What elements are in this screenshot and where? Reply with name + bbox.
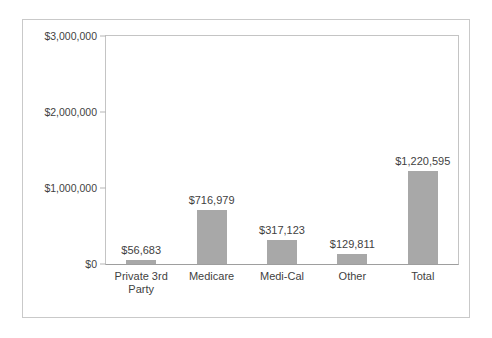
bar-other[interactable] (337, 254, 367, 264)
y-tick-label-3000000: $3,000,000 (22, 31, 106, 42)
bar-value-label-medi-cal: $317,123 (259, 224, 305, 237)
bar-medicare[interactable] (197, 210, 227, 264)
bar-value-label-medicare: $716,979 (189, 194, 235, 207)
bar-total[interactable] (408, 171, 438, 264)
chart-frame: $3,000,000 $2,000,000 $1,000,000 $0 $56,… (22, 19, 470, 318)
bar-slot-medi-cal: $317,123 Medi-Cal (247, 36, 317, 264)
bar-value-label-total: $1,220,595 (395, 155, 450, 168)
category-label-line-1: Total (386, 270, 460, 283)
category-label-line-1: Private 3rd (104, 270, 178, 283)
plot-area: $3,000,000 $2,000,000 $1,000,000 $0 $56,… (105, 35, 459, 265)
category-label-private-3rd-party: Private 3rd Party (104, 270, 178, 296)
category-label-line-1: Medicare (175, 270, 249, 283)
bar-slot-private-3rd-party: $56,683 Private 3rd Party (106, 36, 176, 264)
bar-slot-medicare: $716,979 Medicare (176, 36, 246, 264)
category-label-total: Total (386, 270, 460, 283)
bar-value-label-private-3rd-party: $56,683 (121, 244, 161, 257)
category-label-medicare: Medicare (175, 270, 249, 283)
category-label-medi-cal: Medi-Cal (245, 270, 319, 283)
y-tick-label-1000000: $1,000,000 (22, 182, 106, 193)
bar-slot-other: $129,811 Other (317, 36, 387, 264)
bar-medi-cal[interactable] (267, 240, 297, 264)
category-label-line-1: Medi-Cal (245, 270, 319, 283)
bar-value-label-other: $129,811 (330, 238, 375, 251)
bar-private-3rd-party[interactable] (126, 260, 156, 264)
category-label-line-1: Other (315, 270, 389, 283)
y-tick-label-0: $0 (22, 259, 106, 270)
category-label-line-2: Party (104, 283, 178, 296)
bar-slot-total: $1,220,595 Total (388, 36, 458, 264)
category-label-other: Other (315, 270, 389, 283)
y-tick-label-2000000: $2,000,000 (22, 106, 106, 117)
